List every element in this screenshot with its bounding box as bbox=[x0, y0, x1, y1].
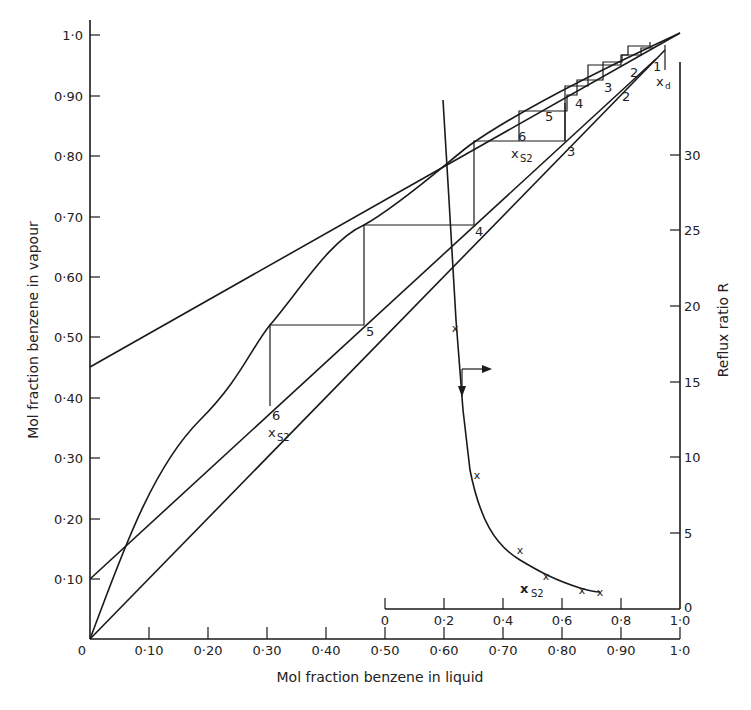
x-tick-label: 0 bbox=[78, 643, 86, 658]
y-tick-label: 0·40 bbox=[54, 391, 83, 406]
inset-x-tick-label: 0·4 bbox=[493, 613, 514, 628]
arrow-down-icon bbox=[458, 386, 466, 397]
inset-x-tick-label: 0·8 bbox=[611, 613, 632, 628]
xs2-annotation-upper: x S2 bbox=[511, 146, 533, 164]
main-axes bbox=[90, 20, 680, 639]
x-tick-label: 0·10 bbox=[135, 643, 164, 658]
x-marker: x bbox=[517, 544, 524, 557]
stage-steps-upper bbox=[519, 42, 665, 141]
x-tick-label: 0·90 bbox=[607, 643, 636, 658]
right-axis-title: Reflux ratio R bbox=[715, 282, 731, 377]
y-tick-label: 0·70 bbox=[54, 210, 83, 225]
stage-label: 6 bbox=[518, 129, 526, 144]
svg-text:x: x bbox=[511, 146, 519, 161]
stage-label: 4 bbox=[575, 96, 583, 111]
x-tick-label: 0·20 bbox=[194, 643, 223, 658]
x-marker: x bbox=[452, 322, 459, 335]
stage-label: 2 bbox=[622, 89, 630, 104]
x-marker: x bbox=[543, 570, 550, 583]
x-tick-label: 1·0 bbox=[670, 643, 691, 658]
inset-x-tick-label: 1·0 bbox=[670, 613, 691, 628]
r-tick-label: 5 bbox=[684, 526, 692, 541]
x-ticks-main: 0 0·10 0·20 0·30 0·40 0·50 0·60 0·70 0·8… bbox=[78, 627, 690, 658]
axis-direction-arrows bbox=[458, 365, 492, 397]
xs2-annotation-inset: x S2 bbox=[520, 581, 544, 599]
x-tick-label: 0·60 bbox=[430, 643, 459, 658]
xs2-annotation-lower: x S2 bbox=[268, 425, 290, 443]
x-marker: x bbox=[579, 584, 586, 597]
inset-x-tick-label: 0·6 bbox=[552, 613, 573, 628]
r-tick-label: 20 bbox=[684, 299, 701, 314]
inset-axes: 0 0·2 0·4 0·6 0·8 1·0 0 5 10 15 20 25 30 bbox=[381, 62, 701, 628]
stage-label: 5 bbox=[366, 324, 374, 339]
stage-label: 4 bbox=[475, 224, 483, 239]
svg-text:x: x bbox=[520, 581, 529, 596]
stage-label: 3 bbox=[567, 144, 575, 159]
y-axis-title: Mol fraction benzene in vapour bbox=[25, 221, 41, 439]
y-tick-label: 0·60 bbox=[54, 270, 83, 285]
x-tick-label: 0·70 bbox=[489, 643, 518, 658]
r-tick-label: 15 bbox=[684, 375, 701, 390]
reflux-ratio-curve bbox=[443, 100, 600, 592]
y-tick-label: 0·30 bbox=[54, 451, 83, 466]
svg-text:d: d bbox=[665, 81, 671, 91]
stage-label: 3 bbox=[604, 80, 612, 95]
y-tick-label: 0·20 bbox=[54, 512, 83, 527]
r-tick-label: 30 bbox=[684, 148, 701, 163]
x-tick-label: 0·40 bbox=[312, 643, 341, 658]
stage-steps-lower bbox=[270, 103, 565, 406]
x-marker: x bbox=[474, 469, 481, 482]
x-tick-label: 0·30 bbox=[253, 643, 282, 658]
diagonal-line bbox=[90, 50, 665, 639]
arrow-right-icon bbox=[482, 365, 492, 373]
inset-x-tick-label: 0·2 bbox=[434, 613, 455, 628]
y-tick-label: 1·0 bbox=[62, 28, 83, 43]
x-tick-label: 0·80 bbox=[548, 643, 577, 658]
operating-line-high bbox=[90, 33, 680, 367]
inset-x-tick-label: 0 bbox=[381, 613, 389, 628]
x-tick-label: 0·50 bbox=[371, 643, 400, 658]
r-tick-label: 0 bbox=[684, 600, 692, 615]
stage-label: 1 bbox=[653, 59, 661, 74]
svg-text:x: x bbox=[656, 74, 664, 89]
xd-annotation: x d bbox=[656, 74, 671, 91]
stage-label: 5 bbox=[545, 109, 553, 124]
stage-label: 6 bbox=[272, 408, 280, 423]
mccabe-thiele-chart: 0·10 0·20 0·30 0·40 0·50 0·60 0·70 0·80 … bbox=[0, 0, 751, 710]
reflux-data-markers: x x x x x x bbox=[452, 322, 604, 599]
x-marker: x bbox=[597, 586, 604, 599]
y-tick-label: 0·90 bbox=[54, 89, 83, 104]
x-axis-title: Mol fraction benzene in liquid bbox=[276, 669, 483, 685]
y-tick-label: 0·80 bbox=[54, 149, 83, 164]
stage-label: 2 bbox=[630, 65, 638, 80]
y-ticks-main: 0·10 0·20 0·30 0·40 0·50 0·60 0·70 0·80 … bbox=[54, 28, 100, 587]
y-tick-label: 0·10 bbox=[54, 572, 83, 587]
svg-text:S2: S2 bbox=[531, 588, 544, 599]
r-tick-label: 10 bbox=[684, 450, 701, 465]
svg-text:S2: S2 bbox=[277, 432, 290, 443]
y-tick-label: 0·50 bbox=[54, 330, 83, 345]
r-tick-label: 25 bbox=[684, 223, 701, 238]
svg-text:x: x bbox=[268, 425, 276, 440]
svg-text:S2: S2 bbox=[520, 153, 533, 164]
